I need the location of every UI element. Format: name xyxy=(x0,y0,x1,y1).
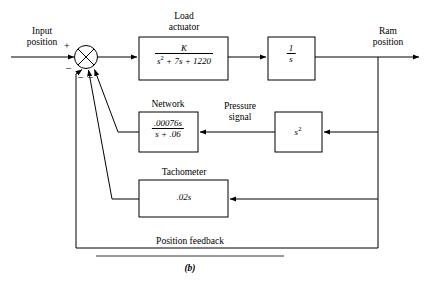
sum-plus-sign: + xyxy=(64,41,70,51)
position-feedback-label: Position feedback xyxy=(156,236,224,247)
integrator-transfer-function: 1 s xyxy=(287,43,296,64)
pressure-signal-label: Pressure signal xyxy=(224,101,256,122)
load-actuator-title-line2: actuator xyxy=(169,22,200,32)
pressure-signal-line1: Pressure xyxy=(224,101,256,111)
ram-position-line1: Ram xyxy=(379,26,397,36)
input-position-label: Input position xyxy=(27,26,58,47)
load-actuator-den-post: + 7s + 1220 xyxy=(164,56,211,66)
sum-minus-sign-3: – xyxy=(88,72,93,82)
figure-caption: (b) xyxy=(184,263,195,273)
tachometer-title-line1: Tachometer xyxy=(162,167,207,177)
network-numerator: .00076s xyxy=(152,118,184,128)
load-actuator-title-line1: Load xyxy=(174,11,194,21)
load-actuator-transfer-function: K s2 + 7s + 1220 xyxy=(155,43,213,66)
pressure-signal-line2: signal xyxy=(229,112,252,122)
tachometer-body: .02s xyxy=(177,192,192,202)
wire-tachometer-out-diagonal xyxy=(89,70,113,199)
figure-container: Input position + – – – Load actuator K s… xyxy=(0,0,424,283)
network-title-line1: Network xyxy=(151,99,184,109)
input-position-line2: position xyxy=(27,37,58,47)
sum-minus-sign-2: – xyxy=(78,72,83,82)
integrator-denominator: s xyxy=(287,53,296,64)
network-denominator: s + .06 xyxy=(152,128,184,139)
load-actuator-title: Load actuator xyxy=(169,11,200,32)
tachometer-title: Tachometer xyxy=(162,167,207,178)
network-title: Network xyxy=(151,99,184,110)
load-actuator-numerator: K xyxy=(155,43,213,53)
load-actuator-denominator: s2 + 7s + 1220 xyxy=(155,53,213,66)
network-transfer-function: .00076s s + .06 xyxy=(152,118,184,139)
pressure-derivative-exponent: 2 xyxy=(298,125,301,132)
sum-minus-sign-1: – xyxy=(66,63,71,73)
integrator-numerator: 1 xyxy=(287,43,296,53)
ram-position-label: Ram position xyxy=(373,26,404,47)
input-position-line1: Input xyxy=(32,26,52,36)
ram-position-line2: position xyxy=(373,37,404,47)
pressure-derivative-body: s2 xyxy=(295,125,302,137)
